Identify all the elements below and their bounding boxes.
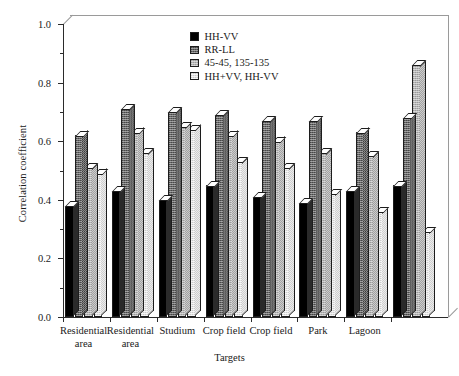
x-tick xyxy=(157,317,158,322)
legend-item: RR-LL xyxy=(190,43,278,56)
x-tick xyxy=(391,317,392,322)
bar-side-face xyxy=(223,110,229,316)
bar-side-face xyxy=(316,116,322,316)
bar-side-face xyxy=(270,116,276,316)
bar-side-face xyxy=(166,195,172,316)
bar-side-face xyxy=(101,169,107,316)
y-tick-label: 0.2 xyxy=(38,253,51,264)
plot-frame-corner-top-left xyxy=(63,15,72,24)
bar-side-face xyxy=(195,125,201,316)
plot-frame-corner-bottom-right xyxy=(448,317,457,326)
legend-item: HH-VV xyxy=(190,30,278,43)
y-tick-major: 0.2 xyxy=(58,258,63,259)
bar-side-face xyxy=(335,190,341,316)
legend-swatch xyxy=(190,72,199,81)
bar xyxy=(65,206,74,317)
bar-side-face xyxy=(148,149,154,316)
correlation-coefficient-bar-chart: Correlation coefficient Targets 0.00.20.… xyxy=(0,0,459,376)
y-tick-minor xyxy=(60,229,63,230)
y-tick-label: 0.4 xyxy=(38,194,51,205)
legend-item: HH+VV, HH-VV xyxy=(190,70,278,83)
x-tick xyxy=(63,317,64,322)
y-tick-minor xyxy=(60,53,63,54)
x-tick-label: Lagoon xyxy=(322,325,408,338)
bar-side-face xyxy=(119,187,125,316)
y-tick-label: 1.0 xyxy=(38,19,51,30)
legend-swatch xyxy=(190,59,199,68)
y-tick-minor xyxy=(60,112,63,113)
bar-side-face xyxy=(260,192,266,316)
bar xyxy=(393,185,402,317)
x-tick xyxy=(251,317,252,322)
bar-side-face xyxy=(410,113,416,316)
bar-side-face xyxy=(307,198,313,316)
y-tick-label: 0.6 xyxy=(38,136,51,147)
legend-label: RR-LL xyxy=(205,43,235,56)
bar-side-face xyxy=(232,131,238,316)
legend-label: HH+VV, HH-VV xyxy=(205,70,279,83)
y-tick-major: 0.8 xyxy=(58,83,63,84)
y-tick-label: 0.0 xyxy=(38,312,51,323)
plot-frame-back-right xyxy=(448,15,449,317)
bar xyxy=(112,191,121,317)
bar-side-face xyxy=(129,105,135,316)
y-tick-label: 0.8 xyxy=(38,77,51,88)
x-tick xyxy=(110,317,111,322)
x-tick xyxy=(344,317,345,322)
legend-label: HH-VV xyxy=(205,30,239,43)
bar xyxy=(159,200,168,317)
legend-item: 45-45, 135-135 xyxy=(190,56,278,69)
bar xyxy=(299,203,308,317)
legend-swatch xyxy=(190,46,199,55)
plot-frame-back-top xyxy=(70,15,448,16)
bar-side-face xyxy=(73,201,79,316)
legend-label: 45-45, 135-135 xyxy=(205,56,270,69)
bar-side-face xyxy=(279,137,285,316)
bar-side-face xyxy=(354,187,360,316)
bar-side-face xyxy=(138,128,144,316)
bar-side-face xyxy=(176,108,182,316)
x-tick xyxy=(204,317,205,322)
bar-side-face xyxy=(82,131,88,316)
bar xyxy=(206,185,215,317)
x-axis-title: Targets xyxy=(0,352,459,363)
chart-legend: HH-VVRR-LL45-45, 135-135HH+VV, HH-VV xyxy=(190,30,278,83)
x-tick xyxy=(297,317,298,322)
y-axis-line xyxy=(63,24,64,317)
bar-side-face xyxy=(401,181,407,316)
y-axis-title: Correlation coefficient xyxy=(17,94,28,254)
y-tick-major: 1.0 xyxy=(58,24,63,25)
bar-side-face xyxy=(185,122,191,316)
bar-side-face xyxy=(373,151,379,316)
y-tick-minor xyxy=(60,288,63,289)
bar xyxy=(346,191,355,317)
bar-side-face xyxy=(420,61,426,316)
bar xyxy=(253,197,262,317)
bar-side-face xyxy=(382,207,388,316)
legend-swatch xyxy=(190,32,199,41)
y-tick-minor xyxy=(60,171,63,172)
y-tick-major: 0.6 xyxy=(58,141,63,142)
bar-side-face xyxy=(289,163,295,316)
bar-side-face xyxy=(429,228,435,316)
bar-side-face xyxy=(242,157,248,316)
bar-side-face xyxy=(92,163,98,316)
bar-side-face xyxy=(213,181,219,316)
bar-side-face xyxy=(326,149,332,316)
y-tick-major: 0.4 xyxy=(58,200,63,201)
bar-side-face xyxy=(363,128,369,316)
